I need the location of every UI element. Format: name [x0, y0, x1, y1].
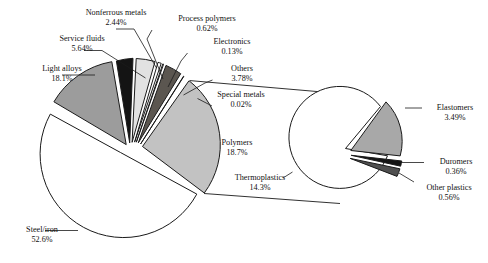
label-special-metals: Special metals 0.02% [180, 90, 302, 109]
label-others-name: Others [198, 64, 286, 74]
label-light-alloys-percent: 18.1% [0, 74, 132, 84]
label-service-fluids-percent: 5.64% [12, 44, 152, 54]
label-special-metals-percent: 0.02% [180, 100, 302, 110]
label-steel-iron: Steel/iron 52.6% [0, 225, 92, 244]
label-polymers: Polymers 18.7% [194, 138, 280, 157]
label-elastomers: Elastomers 3.49% [422, 103, 488, 122]
label-polymers-percent: 18.7% [194, 148, 280, 158]
label-special-metals-name: Special metals [180, 90, 302, 100]
label-process-polymers-name: Process polymers [143, 14, 271, 24]
pie-chart-figure: Nonferrous metals 2.44% Process polymers… [0, 0, 488, 263]
label-electronics-percent: 0.13% [176, 47, 288, 57]
label-process-polymers-percent: 0.62% [143, 24, 271, 34]
label-steel-iron-percent: 52.6% [0, 235, 92, 245]
label-light-alloys-name: Light alloys [0, 64, 132, 74]
label-duromers: Duromers 0.36% [424, 157, 488, 176]
label-elastomers-percent: 3.49% [422, 113, 488, 123]
label-duromers-percent: 0.36% [424, 167, 488, 177]
label-thermoplastics-name: Thermoplastics [202, 173, 318, 183]
label-electronics: Electronics 0.13% [176, 37, 288, 56]
label-duromers-name: Duromers [424, 157, 488, 167]
label-other-plastics-percent: 0.56% [410, 193, 488, 203]
label-steel-iron-name: Steel/iron [0, 225, 92, 235]
label-service-fluids: Service fluids 5.64% [12, 34, 152, 53]
label-elastomers-name: Elastomers [422, 103, 488, 113]
label-thermoplastics: Thermoplastics 14.3% [202, 173, 318, 192]
label-light-alloys: Light alloys 18.1% [0, 64, 132, 83]
label-process-polymers: Process polymers 0.62% [143, 14, 271, 33]
label-electronics-name: Electronics [176, 37, 288, 47]
label-others-percent: 3.78% [198, 74, 286, 84]
label-polymers-name: Polymers [194, 138, 280, 148]
leader-other-plastics [399, 173, 414, 182]
label-thermoplastics-percent: 14.3% [202, 183, 318, 193]
label-others: Others 3.78% [198, 64, 286, 83]
label-other-plastics: Other plastics 0.56% [410, 183, 488, 202]
label-service-fluids-name: Service fluids [12, 34, 152, 44]
label-other-plastics-name: Other plastics [410, 183, 488, 193]
connector-polymers-bottom [204, 194, 340, 204]
